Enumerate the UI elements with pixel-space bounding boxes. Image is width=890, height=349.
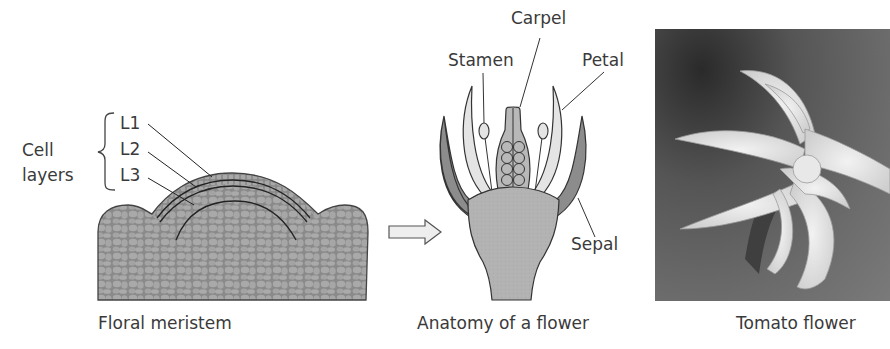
sepal-leader: [578, 198, 595, 237]
anatomy-caption: Anatomy of a flower: [417, 315, 589, 332]
stamen-left-anther: [479, 123, 489, 139]
meristem-body: [98, 173, 368, 300]
carpel-leader: [520, 38, 540, 107]
cell-layers-brace: [98, 113, 115, 190]
layer-l1-label: L1: [120, 115, 140, 132]
tomato-flower-illustration: [655, 29, 890, 301]
layer-l3-label: L3: [120, 167, 140, 184]
layers-label: layers: [22, 167, 74, 184]
stamen-leader: [483, 73, 484, 123]
petal-leader: [562, 72, 604, 110]
cell-label: Cell: [22, 142, 54, 159]
petal-label: Petal: [582, 52, 624, 69]
transition-arrow-icon: [389, 220, 441, 244]
tomato-flower-photo: [655, 29, 890, 301]
l1-leader: [148, 124, 212, 177]
sepal-label: Sepal: [571, 236, 618, 253]
floral-meristem-caption: Floral meristem: [98, 315, 232, 332]
flower-anatomy: [440, 38, 604, 300]
petal-right: [533, 86, 562, 196]
receptacle: [468, 187, 559, 300]
carpel-label: Carpel: [511, 10, 566, 27]
tomato-flower-caption: Tomato flower: [736, 315, 856, 332]
petal-left: [463, 86, 492, 196]
stamen-right-anther: [538, 123, 548, 139]
layer-l2-label: L2: [120, 141, 140, 158]
stamen-label: Stamen: [448, 52, 514, 69]
